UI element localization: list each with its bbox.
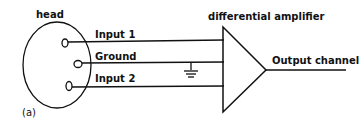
electrode-ground	[74, 61, 82, 68]
label-output: Output channel	[272, 56, 359, 66]
wire-input1	[68, 40, 224, 42]
label-amplifier: differential amplifier	[208, 12, 324, 22]
electrode-input2	[66, 82, 72, 91]
differential-amplifier-diagram: head Input 1 Ground Input 2 differential…	[0, 0, 362, 124]
wire-ground	[82, 62, 224, 63]
ground-symbol-icon	[184, 62, 198, 77]
head-outline	[23, 22, 91, 108]
label-input2: Input 2	[95, 74, 135, 84]
label-ground: Ground	[95, 52, 136, 62]
label-panel: (a)	[22, 108, 36, 118]
electrode-input1	[62, 39, 68, 47]
wire-input2	[72, 86, 224, 87]
label-input1: Input 1	[95, 30, 135, 40]
label-head: head	[36, 10, 64, 20]
amplifier-triangle	[223, 27, 266, 112]
